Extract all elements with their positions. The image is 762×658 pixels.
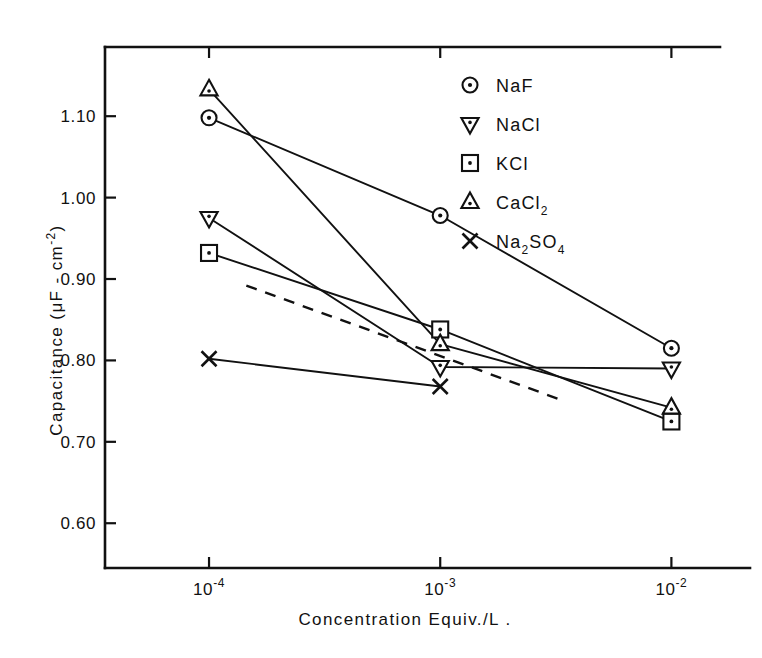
legend-marker-cacl (461, 193, 478, 209)
x-axis-title: Concentration Equiv./L . (298, 610, 511, 629)
chart-legend: NaFNaClKClCaCl2Na2SO4 (461, 76, 565, 257)
legend-marker-naf (463, 78, 478, 93)
y-axis-ticks (105, 116, 116, 523)
datapoint-kcl (663, 413, 679, 429)
svg-text:Capacitance (μF - cm-2): Capacitance (μF - cm-2) (44, 224, 66, 435)
x-tick-label: 10-2 (655, 576, 687, 599)
datapoint-nacl (432, 361, 449, 377)
x-axis-ticks-top (209, 47, 671, 58)
datapoint-naf (202, 110, 217, 125)
y-tick-label: 1.10 (61, 107, 97, 126)
legend-marker-na (463, 234, 478, 249)
legend-label-nacl: NaCl (496, 115, 541, 135)
y-tick-label: 1.00 (61, 189, 97, 208)
plot-frame (105, 47, 750, 568)
y-axis-title-exponent: -2 (44, 231, 58, 244)
datapoint-nacl (663, 363, 680, 379)
x-axis-tick-labels: 10-410-310-2 (193, 576, 687, 599)
legend-label-naf: NaF (496, 76, 534, 96)
datapoint-naf (433, 208, 448, 223)
x-tick-label: 10-3 (424, 576, 456, 599)
y-axis-title-text: Capacitance (μF - cm (47, 245, 66, 436)
datapoint-naf (664, 341, 679, 356)
series-line-na (209, 359, 440, 387)
series-markers-group (200, 80, 680, 430)
series-line-naf (209, 118, 671, 348)
legend-label-kcl: KCl (496, 154, 529, 174)
y-axis-title: Capacitance (μF - cm-2) (44, 224, 66, 435)
legend-marker-nacl (461, 118, 478, 134)
x-tick-label: 10-4 (193, 576, 225, 599)
capacitance-concentration-chart: 1.101.000.900.800.700.60 10-410-310-2 Na… (0, 0, 762, 658)
datapoint-nacl (200, 212, 217, 228)
figure-container: 1.101.000.900.800.700.60 10-410-310-2 Na… (0, 0, 762, 658)
legend-label-cacl: CaCl2 (496, 193, 549, 218)
datapoint-cacl (200, 80, 217, 96)
y-axis-title-paren: ) (47, 224, 66, 231)
legend-marker-kcl (462, 155, 478, 171)
y-tick-label: 0.60 (61, 514, 97, 533)
x-axis-ticks (209, 557, 671, 568)
datapoint-kcl (201, 245, 217, 261)
